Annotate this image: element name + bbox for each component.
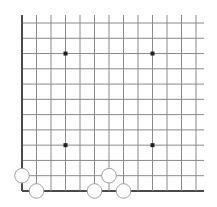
star-point xyxy=(64,52,68,56)
white-stone[interactable] xyxy=(15,168,30,183)
board-grid xyxy=(22,15,204,191)
stones-layer[interactable] xyxy=(15,168,131,198)
white-stone[interactable] xyxy=(29,184,44,199)
white-stone[interactable] xyxy=(87,184,102,199)
go-board[interactable] xyxy=(0,0,217,207)
white-stone[interactable] xyxy=(102,168,117,183)
white-stone[interactable] xyxy=(116,184,131,199)
star-point xyxy=(151,143,155,147)
star-point xyxy=(64,143,68,147)
star-point xyxy=(151,52,155,56)
